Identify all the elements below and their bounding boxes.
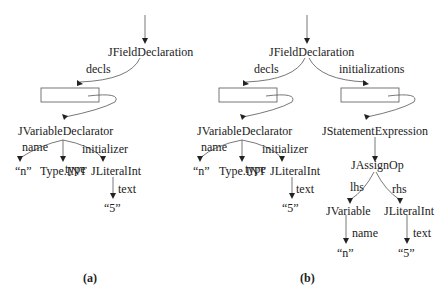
edge-initializer-a: initializer — [82, 142, 128, 156]
node-literal-value-a: “5” — [104, 201, 121, 215]
node-jfielddeclaration-a: JFieldDeclaration — [108, 45, 193, 59]
edge-decls-b: decls — [254, 62, 279, 76]
edge-decls-a: decls — [86, 62, 111, 76]
node-name-value-a: “n” — [15, 164, 32, 178]
edge-rhs: rhs — [392, 182, 407, 196]
caption-b: (b) — [300, 271, 315, 286]
edge-text-b: text — [296, 182, 314, 196]
node-var-value: “n” — [337, 246, 354, 260]
node-type-int-b: Type.INT — [219, 164, 266, 178]
node-jfielddeclaration-b: JFieldDeclaration — [269, 45, 354, 59]
edge-rhs-text: text — [413, 226, 431, 240]
edge-lhs: lhs — [350, 180, 364, 194]
node-jassignop: JAssignOp — [351, 158, 404, 172]
edge-var-name: name — [352, 226, 378, 240]
node-jliteralint-b: JLiteralInt — [270, 164, 320, 178]
edge-text-a: text — [118, 182, 136, 196]
edge-initializer-b: initializer — [262, 142, 308, 156]
node-jstatementexpression: JStatementExpression — [322, 124, 428, 138]
node-jvariable: JVariable — [326, 204, 371, 218]
node-jliteralint-a: JLiteralInt — [91, 164, 141, 178]
edge-name-a: name — [22, 140, 48, 154]
node-literal-value-b: “5” — [282, 201, 299, 215]
node-name-value-b: “n” — [193, 164, 210, 178]
edge-name-b: name — [201, 140, 227, 154]
caption-a: (a) — [83, 271, 97, 286]
node-type-int-a: Type.INT — [40, 164, 87, 178]
node-jliteralint-rhs: JLiteralInt — [384, 204, 434, 218]
node-rhs-value: “5” — [398, 246, 415, 260]
node-jvariabledeclarator-a: JVariableDeclarator — [18, 124, 113, 138]
edge-initializations-b: initializations — [339, 62, 404, 76]
node-jvariabledeclarator-b: JVariableDeclarator — [197, 124, 292, 138]
